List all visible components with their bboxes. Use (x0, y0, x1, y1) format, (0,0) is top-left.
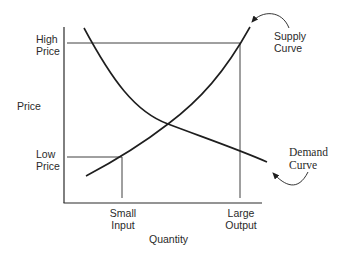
large-output-label-line1: Large (217, 207, 265, 219)
demand-curve-label-line1: Demand (289, 146, 328, 159)
large-output-label: Large Output (217, 207, 265, 231)
low-price-label-line1: Low (36, 148, 60, 160)
supply-curve-label: Supply Curve (274, 30, 306, 54)
demand-arrow-icon (273, 172, 308, 185)
y-axis-title: Price (17, 100, 41, 112)
high-price-label: High Price (36, 33, 60, 57)
low-price-label-line2: Price (36, 160, 60, 172)
small-input-label-line1: Small (101, 207, 145, 219)
demand-curve-label: Demand Curve (289, 146, 328, 171)
small-input-label: Small Input (101, 207, 145, 231)
supply-curve (86, 27, 250, 176)
supply-curve-label-line1: Supply (274, 30, 306, 42)
large-output-label-line2: Output (217, 219, 265, 231)
supply-curve-label-line2: Curve (274, 42, 306, 54)
supply-demand-diagram: High Price Price Low Price Small Input L… (0, 0, 344, 256)
demand-curve-label-line2: Curve (289, 159, 328, 172)
small-input-label-line2: Input (101, 219, 145, 231)
supply-arrow-icon (252, 14, 289, 28)
high-price-label-line1: High (36, 33, 60, 45)
x-axis-title: Quantity (149, 233, 188, 245)
high-price-label-line2: Price (36, 45, 60, 57)
low-price-label: Low Price (36, 148, 60, 172)
